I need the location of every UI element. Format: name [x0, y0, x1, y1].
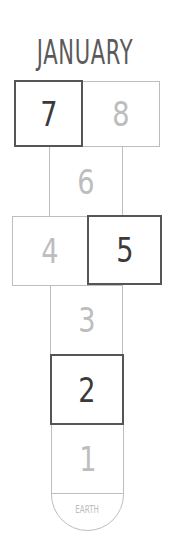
hopscotch-cell-6[interactable]: 6 [49, 146, 123, 217]
month-title: JANUARY [32, 30, 137, 74]
earth-base[interactable]: EARTH [51, 493, 124, 531]
hopscotch-cell-2[interactable]: 2 [50, 354, 124, 425]
hopscotch-cell-4[interactable]: 4 [12, 216, 88, 286]
cell-number: 7 [40, 94, 57, 134]
cell-number: 5 [116, 230, 133, 270]
earth-label: EARTH [76, 503, 100, 516]
cell-number: 1 [79, 439, 96, 479]
cell-number: 8 [112, 94, 129, 134]
hopscotch-cell-8[interactable]: 8 [82, 81, 160, 147]
hopscotch-cell-1[interactable]: 1 [51, 424, 124, 494]
cell-number: 6 [77, 162, 94, 202]
hopscotch-cell-7[interactable]: 7 [14, 80, 83, 147]
hopscotch-cell-3[interactable]: 3 [50, 285, 123, 355]
hopscotch-cell-5[interactable]: 5 [87, 215, 162, 285]
cell-number: 3 [78, 300, 95, 340]
cell-number: 4 [41, 231, 58, 271]
cell-number: 2 [78, 370, 95, 410]
